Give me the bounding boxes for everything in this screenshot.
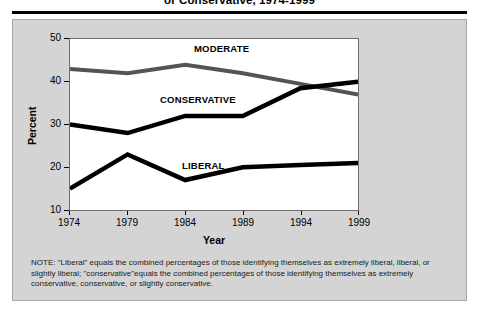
series-line-moderate bbox=[70, 65, 358, 95]
series-line-conservative bbox=[70, 82, 358, 133]
y-axis-title: Percent bbox=[26, 106, 38, 145]
x-tick-label-1974: 1974 bbox=[49, 218, 89, 228]
x-axis-title: Year bbox=[69, 234, 359, 246]
y-tick-label-40: 40 bbox=[31, 76, 61, 86]
y-tick-label-50: 50 bbox=[31, 33, 61, 43]
chart-figure: or Conservative, 1974-1999 50 40 30 20 1… bbox=[0, 0, 479, 311]
series-label-liberal: LIBERAL bbox=[182, 160, 225, 171]
x-tick-label-1979: 1979 bbox=[107, 218, 147, 228]
series-label-conservative: CONSERVATIVE bbox=[160, 94, 236, 105]
series-label-moderate: MODERATE bbox=[194, 43, 249, 54]
x-tick-mark-1994 bbox=[301, 211, 302, 215]
title-divider-rule bbox=[12, 11, 467, 14]
x-tick-mark-1979 bbox=[127, 211, 128, 215]
x-tick-label-1984: 1984 bbox=[165, 218, 205, 228]
plot-area bbox=[69, 38, 359, 211]
y-tick-label-20: 20 bbox=[31, 162, 61, 172]
figure-note: NOTE: "Liberal" equals the combined perc… bbox=[31, 258, 451, 290]
x-tick-label-1989: 1989 bbox=[223, 218, 263, 228]
x-tick-mark-1989 bbox=[243, 211, 244, 215]
x-tick-mark-1984 bbox=[185, 211, 186, 215]
x-tick-mark-1974 bbox=[69, 211, 70, 215]
x-tick-mark-1999 bbox=[358, 211, 359, 215]
series-canvas bbox=[70, 39, 358, 210]
y-tick-label-10: 10 bbox=[31, 205, 61, 215]
x-tick-label-1994: 1994 bbox=[281, 218, 321, 228]
figure-title: or Conservative, 1974-1999 bbox=[0, 0, 479, 6]
x-tick-label-1999: 1999 bbox=[339, 218, 379, 228]
